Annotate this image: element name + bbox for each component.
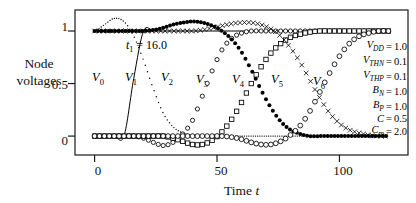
curve-markers-v3 (93, 20, 388, 139)
curves-group (92, 18, 391, 148)
curve-v4 (92, 29, 390, 147)
curve-markers-v2 (92, 29, 390, 148)
plot-canvas (0, 0, 416, 203)
curve-v3 (93, 20, 388, 139)
curve-v2 (92, 29, 390, 148)
curve-v5 (92, 20, 387, 138)
curve-markers-v4 (92, 29, 390, 147)
curve-v6 (92, 28, 391, 147)
curve-markers-v5 (92, 20, 387, 138)
curve-line-v0 (95, 28, 389, 141)
curve-markers-v6 (92, 28, 391, 147)
curve-v0 (95, 28, 389, 141)
node-voltages-figure: Node voltages 1 0.5 0 0 50 100 Time t t1… (0, 0, 416, 203)
